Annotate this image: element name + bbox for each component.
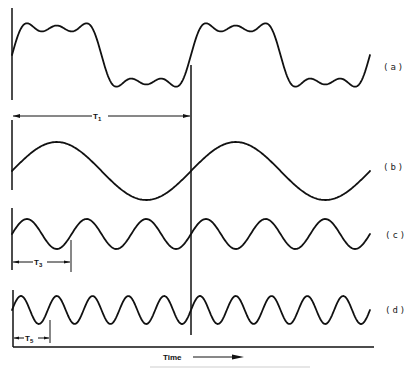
t5-dimension-arrow: T5 <box>14 334 49 344</box>
time-axis-label: Time <box>163 353 182 362</box>
t3-label: T3 <box>34 258 43 268</box>
t5-label: T5 <box>25 334 34 344</box>
waveform-label-b: (b) <box>383 162 405 172</box>
t3-dimension-arrow: T3 <box>13 258 70 268</box>
t1-label: T1 <box>93 112 102 122</box>
waveform-label-d: (d) <box>385 305 407 315</box>
harmonic-synthesis-diagram: T1 T3 T5 Time (a) (b) (c) (d) <box>0 0 418 370</box>
t1-dimension-arrow: T1 <box>13 112 190 122</box>
time-arrow-icon <box>193 355 244 360</box>
waveform-label-a: (a) <box>383 62 405 72</box>
faint-caption <box>150 366 310 368</box>
waveform-label-c: (c) <box>385 230 407 240</box>
